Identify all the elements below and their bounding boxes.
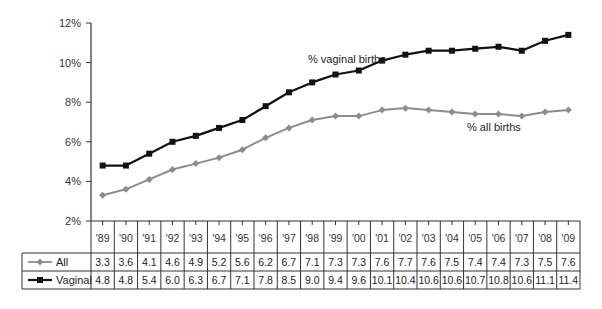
table-cell-value: 7.6 xyxy=(561,256,576,268)
table-cell-value: 3.6 xyxy=(119,256,134,268)
data-point-diamond-icon xyxy=(472,111,479,118)
data-point-diamond-icon xyxy=(379,107,386,114)
data-point-square-icon xyxy=(309,79,315,85)
data-point-diamond-icon xyxy=(239,146,246,153)
data-point-square-icon xyxy=(565,32,571,38)
data-point-diamond-icon xyxy=(425,107,432,114)
x-tick-label: '94 xyxy=(212,232,226,244)
table-cell-value: 10.8 xyxy=(488,274,509,286)
x-tick-label: '95 xyxy=(236,232,250,244)
x-tick-label: '99 xyxy=(329,232,343,244)
data-point-diamond-icon xyxy=(216,154,223,161)
y-tick-label: 6% xyxy=(65,136,81,148)
table-cell-value: 4.9 xyxy=(188,256,203,268)
table-cell-value: 6.2 xyxy=(258,256,273,268)
x-tick-label: '98 xyxy=(305,232,319,244)
legend-label: Vaginal xyxy=(56,274,92,286)
data-point-square-icon xyxy=(239,117,245,123)
table-cell-value: 10.6 xyxy=(418,274,439,286)
table-cell-value: 11.4 xyxy=(559,274,579,286)
data-point-diamond-icon xyxy=(448,109,455,116)
legend-square-marker-icon xyxy=(37,277,43,283)
table-cell-value: 10.1 xyxy=(372,274,393,286)
table-cell-value: 11.1 xyxy=(535,274,555,286)
data-point-diamond-icon xyxy=(285,124,292,131)
data-point-diamond-icon xyxy=(402,105,409,112)
x-tick-label: '89 xyxy=(96,232,110,244)
data-point-square-icon xyxy=(216,125,222,131)
x-tick-label: '08 xyxy=(538,232,552,244)
table-cell-value: 7.4 xyxy=(468,256,483,268)
table-cell-value: 7.1 xyxy=(305,256,320,268)
table-cell-value: 7.5 xyxy=(445,256,460,268)
table-cell-value: 9.4 xyxy=(328,274,343,286)
x-tick-label: '01 xyxy=(375,232,389,244)
x-tick-label: '97 xyxy=(282,232,296,244)
data-point-square-icon xyxy=(193,133,199,139)
x-tick-label: '06 xyxy=(492,232,506,244)
y-tick-label: 10% xyxy=(59,57,81,69)
table-cell-value: 10.7 xyxy=(465,274,486,286)
x-tick-label: '05 xyxy=(468,232,482,244)
x-tick-label: '92 xyxy=(166,232,180,244)
table-cell-value: 7.3 xyxy=(514,256,529,268)
table-cell-value: 7.5 xyxy=(538,256,553,268)
x-tick-label: '07 xyxy=(515,232,529,244)
table-cell-value: 10.6 xyxy=(442,274,463,286)
data-point-square-icon xyxy=(123,163,129,169)
data-point-diamond-icon xyxy=(495,111,502,118)
table-cell-value: 6.0 xyxy=(165,274,180,286)
x-tick-label: '90 xyxy=(119,232,133,244)
data-point-square-icon xyxy=(426,48,432,54)
table-cell-value: 7.4 xyxy=(491,256,506,268)
table-cell-value: 4.6 xyxy=(165,256,180,268)
table-cell-value: 3.3 xyxy=(95,256,110,268)
line-chart: 2%4%6%8%10%12%'89'90'91'92'93'94'95'96'9… xyxy=(0,0,602,309)
y-tick-label: 4% xyxy=(65,175,81,187)
table-cell-value: 6.7 xyxy=(212,274,227,286)
data-point-diamond-icon xyxy=(332,113,339,120)
data-point-square-icon xyxy=(472,46,478,52)
table-cell-value: 7.8 xyxy=(258,274,273,286)
data-point-square-icon xyxy=(146,151,152,157)
table-cell-value: 10.4 xyxy=(395,274,416,286)
table-cell-value: 5.4 xyxy=(142,274,157,286)
table-cell-value: 10.6 xyxy=(512,274,533,286)
table-cell-value: 4.8 xyxy=(119,274,134,286)
table-cell-value: 7.3 xyxy=(351,256,366,268)
annotation-vaginal-births: % vaginal births xyxy=(308,53,386,65)
data-point-square-icon xyxy=(170,139,176,145)
table-cell-value: 8.5 xyxy=(282,274,297,286)
annotation-all-births: % all births xyxy=(467,121,521,133)
data-point-square-icon xyxy=(286,89,292,95)
x-tick-label: '93 xyxy=(189,232,203,244)
x-tick-label: '96 xyxy=(259,232,273,244)
data-point-diamond-icon xyxy=(355,113,362,120)
data-point-square-icon xyxy=(496,44,502,50)
x-tick-label: '02 xyxy=(399,232,413,244)
chart-canvas: 2%4%6%8%10%12%'89'90'91'92'93'94'95'96'9… xyxy=(0,0,602,309)
x-tick-label: '03 xyxy=(422,232,436,244)
data-point-diamond-icon xyxy=(169,166,176,173)
table-cell-value: 5.2 xyxy=(212,256,227,268)
data-point-diamond-icon xyxy=(262,134,269,141)
data-point-square-icon xyxy=(333,71,339,77)
data-point-square-icon xyxy=(449,48,455,54)
data-point-square-icon xyxy=(356,68,362,74)
data-point-diamond-icon xyxy=(146,176,153,183)
table-cell-value: 7.6 xyxy=(421,256,436,268)
legend-label: All xyxy=(56,256,68,268)
table-cell-value: 9.6 xyxy=(351,274,366,286)
data-point-square-icon xyxy=(100,163,106,169)
x-tick-label: '00 xyxy=(352,232,366,244)
data-point-diamond-icon xyxy=(309,117,316,124)
x-tick-label: '09 xyxy=(562,232,576,244)
data-point-diamond-icon xyxy=(99,192,106,199)
y-tick-label: 2% xyxy=(65,215,81,227)
data-point-square-icon xyxy=(542,38,548,44)
data-point-diamond-icon xyxy=(122,186,129,193)
data-point-diamond-icon xyxy=(542,109,549,116)
table-cell-value: 7.7 xyxy=(398,256,413,268)
legend-diamond-marker-icon xyxy=(37,259,44,266)
table-cell-value: 5.6 xyxy=(235,256,250,268)
